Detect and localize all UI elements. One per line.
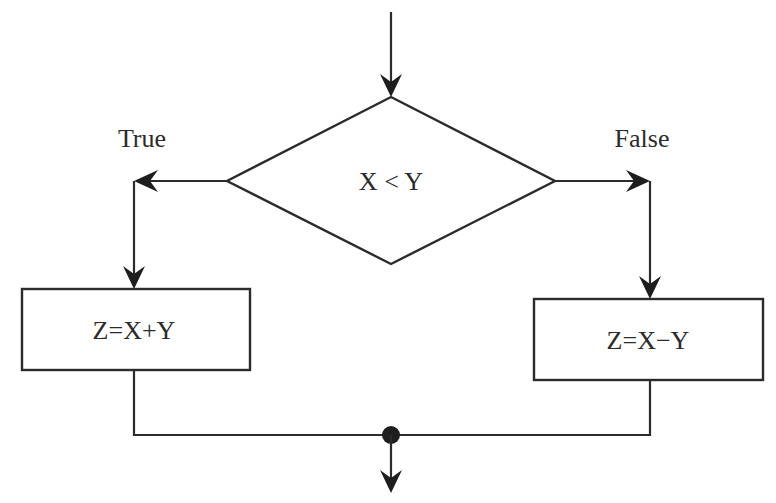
decision-label: X < Y (359, 167, 423, 196)
true-branch: True (118, 124, 227, 289)
true-label: True (118, 124, 166, 153)
false-label: False (615, 124, 670, 153)
process-true-box: Z=X+Y (22, 289, 250, 370)
process-false-box: Z=X−Y (534, 299, 763, 380)
decision-node: X < Y (227, 97, 555, 264)
process-true-label: Z=X+Y (93, 316, 176, 345)
entry-arrow (380, 12, 402, 97)
false-branch: False (555, 124, 669, 299)
flowchart: X < Y True False Z=X+Y Z=X−Y (0, 0, 776, 503)
process-false-label: Z=X−Y (607, 326, 690, 355)
merge-connector (134, 370, 650, 493)
